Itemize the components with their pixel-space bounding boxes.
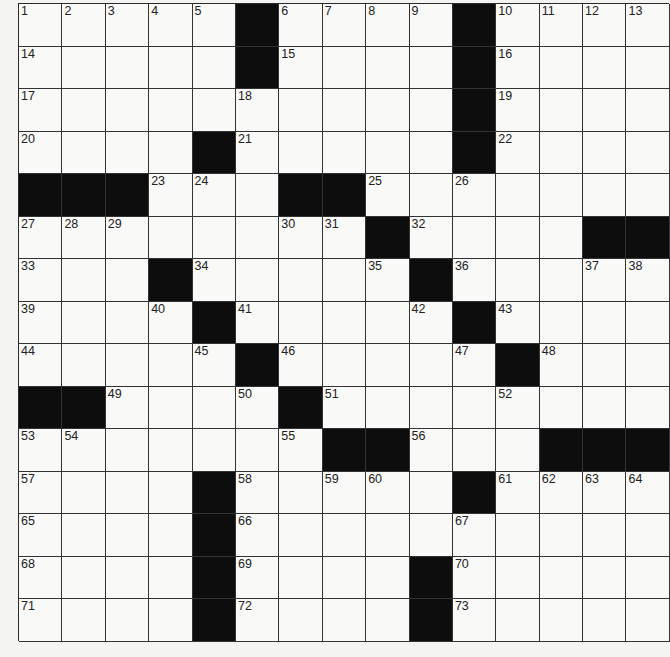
grid-cell[interactable]: 48 [540,344,583,387]
grid-cell[interactable]: 33 [19,259,62,302]
grid-cell[interactable]: 43 [496,302,539,345]
grid-cell[interactable] [193,89,236,132]
grid-cell[interactable]: 3 [106,4,149,47]
grid-cell[interactable]: 40 [149,302,192,345]
grid-cell[interactable] [62,599,105,642]
grid-cell[interactable]: 67 [453,514,496,557]
grid-cell[interactable] [410,472,453,515]
grid-cell[interactable] [540,89,583,132]
grid-cell[interactable] [496,557,539,600]
grid-cell[interactable] [626,302,669,345]
grid-cell[interactable] [453,217,496,260]
grid-cell[interactable]: 55 [279,429,322,472]
grid-cell[interactable]: 63 [583,472,626,515]
grid-cell[interactable] [279,89,322,132]
grid-cell[interactable] [410,387,453,430]
grid-cell[interactable] [583,344,626,387]
grid-cell[interactable] [62,514,105,557]
grid-cell[interactable]: 65 [19,514,62,557]
grid-cell[interactable]: 42 [410,302,453,345]
grid-cell[interactable] [323,132,366,175]
grid-cell[interactable] [540,132,583,175]
grid-cell[interactable]: 54 [62,429,105,472]
grid-cell[interactable] [626,132,669,175]
grid-cell[interactable] [366,132,409,175]
grid-cell[interactable] [366,387,409,430]
grid-cell[interactable] [279,132,322,175]
grid-cell[interactable] [62,89,105,132]
grid-cell[interactable] [540,174,583,217]
grid-cell[interactable] [106,132,149,175]
grid-cell[interactable] [106,47,149,90]
grid-cell[interactable]: 30 [279,217,322,260]
grid-cell[interactable] [540,557,583,600]
grid-cell[interactable] [323,599,366,642]
grid-cell[interactable] [626,387,669,430]
grid-cell[interactable] [583,89,626,132]
grid-cell[interactable] [106,514,149,557]
grid-cell[interactable] [496,217,539,260]
grid-cell[interactable] [62,259,105,302]
grid-cell[interactable] [626,599,669,642]
grid-cell[interactable] [323,557,366,600]
grid-cell[interactable] [540,259,583,302]
grid-cell[interactable]: 5 [193,4,236,47]
grid-cell[interactable] [149,387,192,430]
grid-cell[interactable]: 16 [496,47,539,90]
grid-cell[interactable]: 17 [19,89,62,132]
grid-cell[interactable]: 70 [453,557,496,600]
grid-cell[interactable] [583,599,626,642]
grid-cell[interactable] [149,47,192,90]
grid-cell[interactable] [323,302,366,345]
grid-cell[interactable] [279,302,322,345]
grid-cell[interactable]: 60 [366,472,409,515]
grid-cell[interactable]: 8 [366,4,409,47]
grid-cell[interactable]: 6 [279,4,322,47]
grid-cell[interactable] [149,429,192,472]
grid-cell[interactable] [323,259,366,302]
grid-cell[interactable] [366,514,409,557]
grid-cell[interactable] [106,557,149,600]
grid-cell[interactable]: 66 [236,514,279,557]
grid-cell[interactable] [626,514,669,557]
grid-cell[interactable] [366,302,409,345]
grid-cell[interactable] [540,217,583,260]
grid-cell[interactable] [583,47,626,90]
grid-cell[interactable] [149,472,192,515]
grid-cell[interactable]: 7 [323,4,366,47]
grid-cell[interactable] [626,557,669,600]
grid-cell[interactable]: 38 [626,259,669,302]
grid-cell[interactable]: 50 [236,387,279,430]
grid-cell[interactable] [62,472,105,515]
grid-cell[interactable]: 23 [149,174,192,217]
grid-cell[interactable]: 68 [19,557,62,600]
grid-cell[interactable]: 41 [236,302,279,345]
grid-cell[interactable]: 36 [453,259,496,302]
grid-cell[interactable]: 46 [279,344,322,387]
grid-cell[interactable] [410,514,453,557]
grid-cell[interactable]: 56 [410,429,453,472]
grid-cell[interactable] [149,557,192,600]
grid-cell[interactable]: 12 [583,4,626,47]
grid-cell[interactable]: 25 [366,174,409,217]
grid-cell[interactable]: 51 [323,387,366,430]
grid-cell[interactable]: 9 [410,4,453,47]
grid-cell[interactable]: 26 [453,174,496,217]
grid-cell[interactable] [62,344,105,387]
grid-cell[interactable]: 24 [193,174,236,217]
grid-cell[interactable] [236,174,279,217]
grid-cell[interactable] [236,217,279,260]
grid-cell[interactable]: 31 [323,217,366,260]
grid-cell[interactable] [62,557,105,600]
grid-cell[interactable] [62,47,105,90]
grid-cell[interactable] [193,47,236,90]
grid-cell[interactable]: 15 [279,47,322,90]
grid-cell[interactable]: 13 [626,4,669,47]
grid-cell[interactable] [193,429,236,472]
grid-cell[interactable]: 20 [19,132,62,175]
grid-cell[interactable] [106,259,149,302]
grid-cell[interactable] [540,514,583,557]
grid-cell[interactable] [410,132,453,175]
grid-cell[interactable]: 37 [583,259,626,302]
grid-cell[interactable]: 29 [106,217,149,260]
